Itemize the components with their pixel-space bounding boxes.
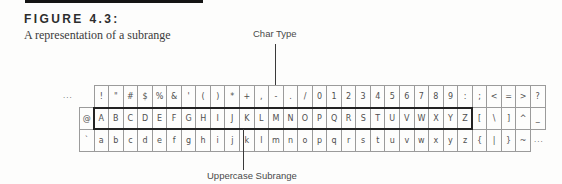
char-cell: < [486,85,502,108]
char-cell: / [297,85,313,108]
char-cell: O [297,107,313,130]
char-cell: , [254,85,270,108]
char-cell: T [370,107,386,130]
char-cell: I [210,107,226,130]
char-cell: M [268,107,284,130]
char-cell: N [283,107,299,130]
char-cell: Z [457,107,473,130]
char-cell: { [472,129,488,152]
char-cell: 5 [384,85,400,108]
char-cell: D [137,107,153,130]
char-cell: R [341,107,357,130]
char-row-punctuation-digits: !"#$%&'()*+,-./0123456789:;<=>? [94,85,545,108]
char-cell: X [428,107,444,130]
char-cell: ? [530,85,546,108]
char-cell: $ [137,85,153,108]
char-cell: x [428,129,444,152]
char-cell: * [224,85,240,108]
left-continuation-ellipsis: ... [63,88,73,104]
char-cell: U [384,107,400,130]
char-cell: n [283,129,299,152]
char-cell: g [181,129,197,152]
char-cell: _ [530,107,546,130]
char-cell: m [268,129,284,152]
char-cell: f [166,129,182,152]
char-cell: G [181,107,197,130]
char-cell: h [195,129,211,152]
figure-top-rule [25,0,203,3]
char-cell: t [370,129,386,152]
char-cell: z [457,129,473,152]
char-cell: ^ [515,107,531,130]
char-cell: + [239,85,255,108]
char-cell: 9 [443,85,459,108]
char-cell: c [123,129,139,152]
char-cell: | [486,129,502,152]
uppercase-subrange-pointer-line [243,129,244,170]
ascii-character-table: ... !"#$%&'()*+,-./0123456789:;<=>? @ABC… [79,85,545,152]
char-cell: j [224,129,240,152]
char-cell: @ [79,107,95,130]
char-row-lowercase: `abcdefghijklmnopqrstuvwxyz{|}~ [79,129,545,152]
char-cell: Q [326,107,342,130]
char-cell: r [341,129,357,152]
char-cell: k [239,129,255,152]
char-cell: q [326,129,342,152]
char-cell: J [224,107,240,130]
char-cell: % [152,85,168,108]
uppercase-subrange-label: Uppercase Subrange [207,170,297,181]
char-cell: P [312,107,328,130]
char-cell: 2 [341,85,357,108]
char-cell: s [355,129,371,152]
char-cell: ] [501,107,517,130]
char-cell: ) [210,85,226,108]
char-cell: B [108,107,124,130]
char-cell: : [457,85,473,108]
figure-4-3: FIGURE 4.3: A representation of a subran… [0,0,562,184]
char-cell: ` [79,129,95,152]
char-cell: i [210,129,226,152]
char-cell: ~ [515,129,531,152]
char-cell: \ [486,107,502,130]
char-cell: b [108,129,124,152]
char-cell: ' [181,85,197,108]
char-cell: l [254,129,270,152]
char-cell: u [384,129,400,152]
char-cell: [ [472,107,488,130]
char-cell: 6 [399,85,415,108]
char-cell: a [94,129,110,152]
char-cell: E [152,107,168,130]
char-cell: H [195,107,211,130]
char-cell: C [123,107,139,130]
char-cell: 4 [370,85,386,108]
figure-caption: A representation of a subrange [24,28,171,43]
char-type-pointer-line [275,44,276,85]
char-cell: - [268,85,284,108]
char-cell: " [108,85,124,108]
char-cell: . [283,85,299,108]
char-cell: & [166,85,182,108]
char-cell: ( [195,85,211,108]
char-cell: o [297,129,313,152]
char-cell: A [94,107,110,130]
char-cell: ! [94,85,110,108]
char-cell: Y [443,107,459,130]
char-cell: e [152,129,168,152]
char-cell: d [137,129,153,152]
figure-title: FIGURE 4.3: [24,12,120,26]
char-cell: > [515,85,531,108]
char-row-uppercase: @ABCDEFGHIJKLMNOPQRSTUVWXYZ[\]^_ [79,107,545,130]
char-cell: S [355,107,371,130]
char-cell: 1 [326,85,342,108]
right-continuation-ellipsis: ... [534,132,544,148]
char-cell: # [123,85,139,108]
char-cell: ; [472,85,488,108]
char-cell: y [443,129,459,152]
char-cell: W [414,107,430,130]
char-cell: 3 [355,85,371,108]
char-cell: } [501,129,517,152]
char-cell: V [399,107,415,130]
char-cell: p [312,129,328,152]
char-cell: 7 [414,85,430,108]
char-cell: w [414,129,430,152]
